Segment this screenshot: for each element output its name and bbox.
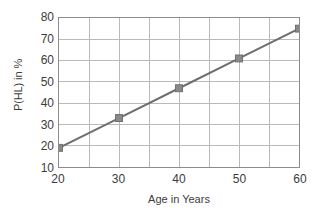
data-series	[59, 18, 299, 167]
x-axis-title: Age in Years	[58, 192, 300, 206]
data-point-marker	[116, 115, 123, 122]
plot-area	[58, 17, 300, 168]
x-tick-label: 30	[99, 172, 139, 186]
y-tick-label: 70	[24, 33, 54, 45]
x-axis-tick-labels: 2030405060	[58, 172, 300, 188]
x-tick-label: 20	[38, 172, 78, 186]
data-point-marker	[236, 55, 243, 62]
y-tick-label: 40	[24, 97, 54, 109]
x-tick-label: 50	[220, 172, 260, 186]
data-point-marker	[296, 25, 299, 32]
data-point-marker	[59, 144, 62, 151]
data-point-marker	[176, 85, 183, 92]
x-tick-label: 40	[159, 172, 199, 186]
y-tick-label: 60	[24, 54, 54, 66]
line-chart: P(HL) in % 8070605040302010 2030405060 A…	[0, 0, 322, 224]
y-tick-label: 50	[24, 76, 54, 88]
y-tick-label: 20	[24, 140, 54, 152]
y-axis-tick-labels: 8070605040302010	[24, 17, 54, 168]
y-tick-label: 80	[24, 11, 54, 23]
x-tick-label: 60	[280, 172, 320, 186]
y-tick-label: 30	[24, 119, 54, 131]
